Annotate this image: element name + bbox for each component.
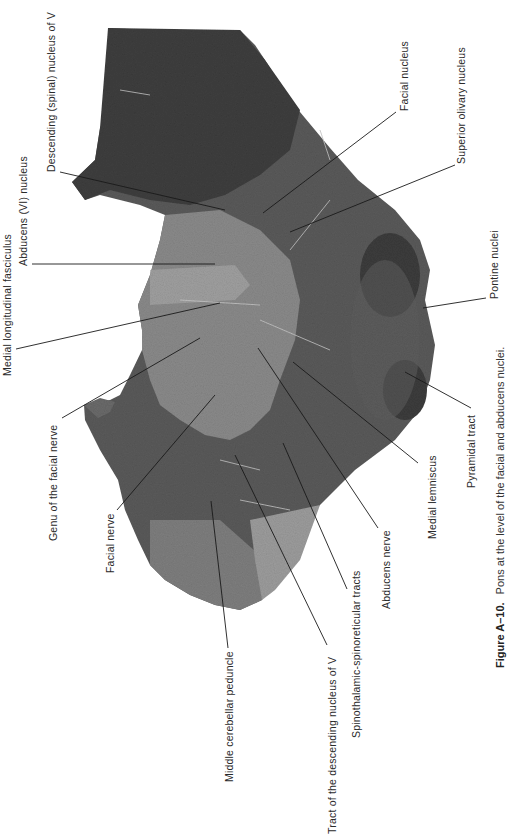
label-medial-longitudinal-fasciculus: Medial longitudinal fasciculus [1,234,13,376]
label-middle-cerebellar-peduncle: Middle cerebellar peduncle [223,651,235,782]
label-spinothalamic-spinoreticular-tracts: Spinothalamic-spinoreticular tracts [350,571,362,738]
figure-caption: Figure A–10.Pons at the level of the fac… [494,347,506,668]
figure-number: Figure A–10. [494,602,506,668]
label-facial-nerve: Facial nerve [104,513,116,573]
label-pontine-nuclei: Pontine nuclei [488,230,500,299]
pons-section-figure [0,0,520,838]
label-genu-of-facial-nerve: Genu of the facial nerve [47,425,59,541]
label-medial-lemniscus: Medial lemniscus [426,455,438,539]
label-descending-spinal-nucleus-v: Descending (spinal) nucleus of V [45,12,57,172]
label-pyramidal-tract: Pyramidal tract [465,415,477,488]
label-abducens-nerve: Abducens nerve [380,530,392,609]
label-facial-nucleus: Facial nucleus [398,41,410,111]
figure-caption-text: Pons at the level of the facial and abdu… [494,347,506,595]
leader-pontine-nuclei [423,298,486,308]
label-abducens-vi-nucleus: Abducens (VI) nucleus [17,156,29,266]
label-superior-olivary-nucleus: Superior olivary nucleus [455,47,467,164]
tissue-section [72,28,435,610]
label-tract-descending-nucleus-v: Tract of the descending nucleus of V [326,657,338,834]
